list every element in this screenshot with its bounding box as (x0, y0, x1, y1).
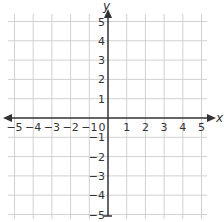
y-tick-label: −4 (89, 189, 105, 202)
coordinate-plane: −5−4−3−2−1012345−5−4−3−2−112345 x y (0, 0, 224, 221)
y-tick-label: 5 (98, 16, 105, 29)
axes (3, 9, 216, 216)
x-tick-label: 4 (179, 121, 186, 134)
x-tick-label: 2 (142, 121, 149, 134)
y-tick-label: −3 (89, 170, 105, 183)
x-tick-label: 1 (123, 121, 130, 134)
x-tick-label: 3 (161, 121, 168, 134)
y-tick-label: −2 (89, 151, 105, 164)
y-tick-label: 4 (98, 35, 105, 48)
y-tick-label: 3 (98, 54, 105, 67)
y-tick-label: 1 (98, 93, 105, 106)
y-axis-label: y (102, 0, 111, 13)
x-tick-label: −2 (62, 121, 78, 134)
y-tick-label: −5 (89, 209, 105, 222)
x-tick-label: −3 (44, 121, 60, 134)
y-tick-label: −1 (89, 131, 105, 144)
x-axis-right-arrow-icon (207, 114, 216, 122)
y-tick-label: 2 (98, 73, 105, 86)
x-axis-label: x (215, 111, 224, 125)
x-tick-label: −5 (6, 121, 22, 134)
x-tick-label: 5 (198, 121, 205, 134)
x-tick-label: −4 (25, 121, 41, 134)
